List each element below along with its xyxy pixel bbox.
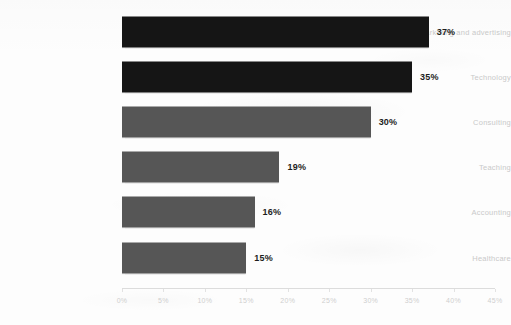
x-axis-tick-label: 15% <box>239 297 254 304</box>
x-axis-tick-label: 25% <box>322 297 337 304</box>
bar-value-label: 19% <box>287 162 306 172</box>
x-axis-tick <box>495 289 496 292</box>
bar <box>122 197 255 228</box>
bar-value-label: 37% <box>437 27 456 37</box>
bar <box>122 242 246 273</box>
x-axis-tick <box>205 289 206 292</box>
plot-area: Marketing and advertising37%Technology35… <box>0 0 511 325</box>
x-axis-tick <box>454 289 455 292</box>
bar-value-label: 15% <box>254 253 273 263</box>
x-axis-tick-label: 0% <box>117 297 128 304</box>
bar-value-label: 35% <box>420 72 439 82</box>
category-label: Consulting <box>393 117 511 126</box>
x-axis-tick-label: 30% <box>363 297 378 304</box>
x-axis-tick <box>122 289 123 292</box>
bar <box>122 106 371 137</box>
x-axis-tick <box>163 289 164 292</box>
x-axis-tick <box>288 289 289 292</box>
x-axis-tick-label: 40% <box>446 297 461 304</box>
bar-value-label: 16% <box>263 207 282 217</box>
bar <box>122 152 279 183</box>
x-axis-tick-label: 45% <box>488 297 503 304</box>
x-axis-tick <box>329 289 330 292</box>
x-axis-tick-label: 10% <box>197 297 212 304</box>
x-axis-tick-label: 35% <box>405 297 420 304</box>
bar-chart: Marketing and advertising37%Technology35… <box>0 0 511 325</box>
category-label: Healthcare <box>393 253 511 262</box>
category-label: Teaching <box>393 163 511 172</box>
category-label: Accounting <box>393 208 511 217</box>
bar-value-label: 30% <box>379 117 398 127</box>
x-axis-line <box>122 288 495 289</box>
x-axis-tick-label: 20% <box>280 297 295 304</box>
x-axis-tick-label: 5% <box>158 297 169 304</box>
bar <box>122 61 412 92</box>
x-axis-tick <box>246 289 247 292</box>
x-axis-tick <box>371 289 372 292</box>
x-axis-tick <box>412 289 413 292</box>
bar <box>122 16 429 47</box>
